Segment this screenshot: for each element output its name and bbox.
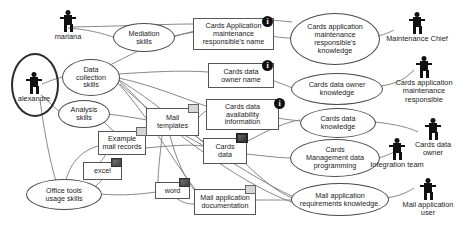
actor-person-icon [389,138,405,160]
edge-example-mail-records-to-cards-data [145,145,203,148]
artifact-label: excel [94,167,111,175]
use-case-label: Analysis skills [71,106,98,122]
use-case-mail-application-requirements-knowledge[interactable]: Mail application requirements knowledge. [291,183,389,216]
artifact-file-icon [111,158,122,167]
artifact-file-icon [179,178,190,187]
info-icon[interactable]: i [262,16,273,27]
actor-label: alexandre [18,95,50,103]
edge-analysis-skills-to-mail-templates [108,114,147,120]
artifact-cards-data-availability-information[interactable]: Cards data availability information [206,99,279,130]
edge-data-collection-skills-to-cards-data-availability-information [119,78,206,106]
artifact-label: Example mail records [102,135,141,151]
actor-person-icon [409,12,425,34]
edge-mail-templates-to-word [158,136,162,182]
use-case-office-tools-usage-skills[interactable]: Office tools usage skills [26,179,102,210]
actor-alexandre[interactable]: alexandre [12,72,56,103]
artifact-label: Cards data owner name [221,68,261,84]
actor-person-icon [425,118,441,140]
use-case-cards-data-knowledge[interactable]: Cards data knowledge [300,108,376,138]
edge-cards-application-maintenance-responsibles-name-to-cards-application-maintenance-responsibles-knowledge [272,36,292,38]
artifact-file-icon [136,127,147,136]
use-case-label: Office tools usage skills [45,187,82,203]
artifact-file-icon [236,133,248,143]
actor-person-icon [60,10,76,32]
edge-data-collection-skills-to-mail-templates [118,80,148,110]
use-case-mediation-skills[interactable]: Mediation skills [113,23,175,52]
edge-mail-templates-to-cards-data-availability-information [198,111,206,118]
actor-mariana[interactable]: mariana [48,10,88,41]
artifact-file-icon [188,104,199,113]
use-case-label: Cards data knowledge [320,115,355,131]
use-case-label: Mail application requirements knowledge. [300,192,380,208]
edge-data-collection-skills-to-cards-data-owner-name [118,71,208,74]
use-case-analysis-skills[interactable]: Analysis skills [58,100,110,128]
actor-person-icon [420,178,436,200]
artifact-label: Cards data [215,143,234,159]
actor-label: Mail application user [403,201,454,218]
actor-person-icon [416,56,432,78]
info-icon[interactable]: i [274,98,285,109]
actor-label: Maintenance Chief [386,35,448,43]
actor-mail-application-user[interactable]: Mail application user [390,178,466,218]
actor-cards-application-maintenance-responsible[interactable]: Cards application maintenance responsibl… [382,56,466,104]
artifact-file-icon [245,185,256,194]
use-case-label: Cards data owner knowledge [309,81,366,97]
edge-office-tools-usage-skills-to-word [100,192,156,195]
artifact-label: Mail templates [157,114,188,130]
edge-cards-data-owner-name-to-cards-data-owner-knowledge [272,80,292,88]
use-case-label: Data collection skills [76,66,106,89]
artifact-label: Cards data availability information [225,103,261,126]
use-case-label: Mediation skills [128,30,159,46]
artifact-label: word [165,187,181,195]
use-case-cards-data-owner-knowledge[interactable]: Cards data owner knowledge [291,73,383,105]
edge-example-mail-records-to-excel [100,154,106,162]
artifact-label: Cards Application maintenance responsibl… [203,22,265,45]
use-case-label: Cards application maintenance responsibl… [307,23,363,54]
actor-label: Integration team [370,161,423,169]
use-case-cards-application-maintenance-responsibles-knowledge[interactable]: Cards application maintenance responsibl… [290,13,380,65]
actor-label: mariana [55,33,82,41]
actor-person-icon [26,72,42,94]
actor-integration-team[interactable]: Integration team [356,138,438,169]
edge-cards-data-availability-information-to-cards-data-knowledge [278,118,300,121]
artifact-label: Mail application documentation [200,194,250,210]
actor-maintenance-chief[interactable]: Maintenance Chief [372,12,462,43]
info-icon[interactable]: i [262,60,273,71]
use-case-data-collection-skills[interactable]: Data collection skills [62,59,120,96]
edge-cards-data-to-cards-management-data-programming [246,154,292,158]
use-case-diagram-canvas: Mediation skillsData collection skillsAn… [0,0,470,238]
actor-label: Cards application maintenance responsibl… [395,79,452,104]
